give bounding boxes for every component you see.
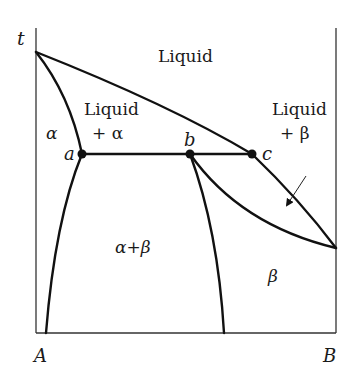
- point-a-label: a: [64, 143, 75, 164]
- point-a-marker: [78, 150, 87, 159]
- region-beta: β: [267, 266, 278, 286]
- point-b-label: b: [184, 129, 196, 150]
- point-c-marker: [248, 150, 257, 159]
- region-liquid-beta-line2: + β: [280, 123, 309, 143]
- alpha-solvus-curve: [46, 154, 82, 333]
- region-liquid: Liquid: [158, 46, 213, 66]
- point-b-marker: [186, 150, 195, 159]
- phase-diagram: t A B Liquid Liquid + α α α+β Liquid + β…: [0, 0, 357, 375]
- region-liquid-beta-line1: Liquid: [272, 99, 327, 119]
- y-axis-label: t: [17, 27, 25, 49]
- region-liquid-alpha-line1: Liquid: [84, 99, 139, 119]
- x-right-label: B: [322, 345, 336, 366]
- x-left-label: A: [32, 345, 47, 366]
- region-alpha: α: [46, 123, 58, 143]
- point-c-label: c: [262, 143, 272, 164]
- beta-solvus-curve: [190, 154, 224, 333]
- region-liquid-alpha-line2: + α: [92, 123, 124, 143]
- region-alpha-beta: α+β: [115, 237, 151, 257]
